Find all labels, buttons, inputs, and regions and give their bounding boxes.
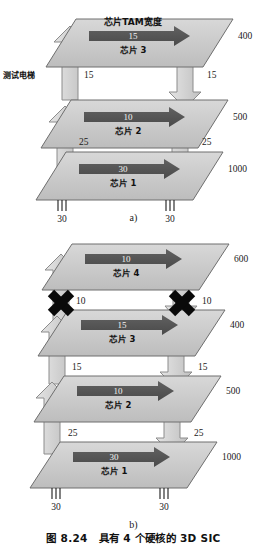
tam-value-a-1: 30 [119, 164, 129, 174]
tam-value-a-3: 15 [129, 31, 139, 41]
tam-width-label: 芯片TAM宽度 [104, 16, 162, 27]
layer-value-a-2: 500 [233, 112, 248, 122]
pins-right-value-b: 30 [159, 502, 169, 512]
tam-value-b-3: 15 [118, 320, 128, 330]
elevator-left-value-a-1: 15 [84, 70, 94, 80]
tam-value-b-2: 10 [114, 386, 124, 396]
chip-layer-b-4 [42, 244, 229, 290]
subcaption-b: b) [0, 519, 267, 530]
chip-label-a-2: 芯片 2 [115, 126, 142, 136]
chip-layer-a-1 [36, 152, 223, 200]
chip-layer-a-2 [41, 100, 228, 148]
chip-layer-b-2 [34, 376, 221, 422]
pins-left-a [58, 200, 66, 211]
diagram-a: 芯片TAM宽度 15 芯片 3 400 10 芯片 2 500 30 芯片 1 [0, 0, 267, 230]
elevator-right-value-b-3: 25 [194, 428, 204, 438]
figure-caption-text: 具有 4 个硬核的 3D SIC [99, 532, 221, 544]
elevator-right-value-b-2: 15 [198, 362, 208, 372]
figure-caption-number: 图 8.24 [46, 532, 87, 544]
elevator-left-value-a-2: 25 [79, 137, 89, 147]
elevator-left-value-b-3: 25 [68, 428, 78, 438]
elevator-left-value-b-1: 10 [76, 296, 86, 306]
tam-value-b-1: 30 [110, 452, 120, 462]
chip-label-a-1: 芯片 1 [110, 178, 137, 188]
pins-left-value-b: 30 [51, 502, 61, 512]
tam-value-b-4: 10 [122, 254, 132, 264]
pins-right-b [160, 488, 168, 499]
elevator-left-value-b-2: 15 [72, 362, 82, 372]
chip-label-b-1: 芯片 1 [101, 466, 128, 476]
elevator-right-value-a-1: 15 [207, 70, 217, 80]
layer-value-a-3: 400 [238, 31, 253, 41]
test-elevator-label: 测试电梯 [3, 70, 35, 80]
diagram-a-canvas: 芯片TAM宽度 15 芯片 3 400 10 芯片 2 500 30 芯片 1 [0, 0, 267, 230]
chip-label-b-2: 芯片 2 [105, 400, 132, 410]
chip-label-b-4: 芯片 4 [113, 268, 140, 278]
layer-value-b-4: 600 [234, 254, 249, 264]
layer-value-b-3: 400 [230, 320, 245, 330]
chip-layer-b-1 [30, 442, 217, 488]
layer-value-b-2: 500 [226, 386, 241, 396]
pins-right-a [166, 200, 174, 211]
chip-label-a-3: 芯片 3 [120, 45, 147, 55]
layer-value-b-1: 1000 [222, 452, 241, 462]
pins-left-b [52, 488, 60, 499]
elevator-right-value-b-1: 10 [202, 296, 212, 306]
figure-3d-sic: 芯片TAM宽度 15 芯片 3 400 10 芯片 2 500 30 芯片 1 [0, 0, 267, 547]
elevator-right-value-a-2: 25 [202, 137, 212, 147]
tam-value-a-2: 10 [124, 112, 134, 122]
subcaption-a: a) [0, 212, 267, 223]
figure-caption: 图 8.24 具有 4 个硬核的 3D SIC [0, 530, 267, 545]
diagram-b: 10 芯片 4 600 15 芯片 3 400 10 芯片 2 500 [0, 232, 267, 517]
diagram-b-canvas: 10 芯片 4 600 15 芯片 3 400 10 芯片 2 500 [0, 232, 267, 517]
chip-label-b-3: 芯片 3 [109, 334, 136, 344]
chip-layer-b-3 [38, 310, 225, 356]
layer-value-a-1: 1000 [228, 164, 247, 174]
